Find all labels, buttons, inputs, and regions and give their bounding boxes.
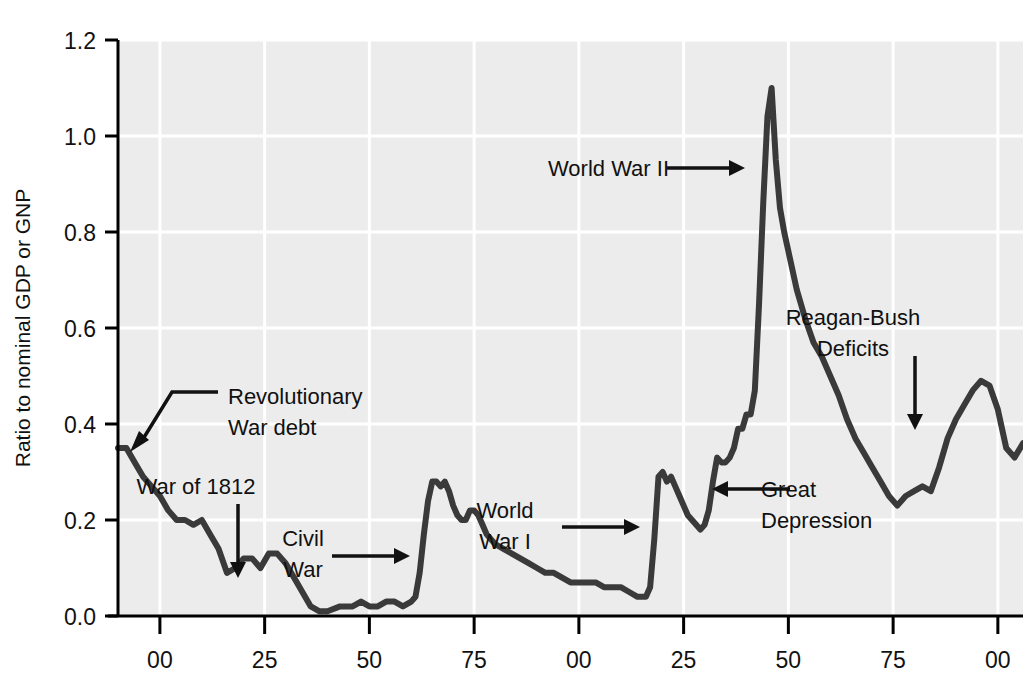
x-tick-label: 50 — [776, 647, 802, 673]
annotation-label: World War II — [548, 156, 669, 181]
annotation-label: War — [283, 557, 323, 582]
x-tick-label: 25 — [252, 647, 278, 673]
chart-figure: 0.00.20.40.60.81.01.2 002550750025507500… — [0, 0, 1023, 687]
x-tick-label: 75 — [880, 647, 906, 673]
x-tick-label: 75 — [461, 647, 487, 673]
x-tick-label: 25 — [671, 647, 697, 673]
annotation-label: Revolutionary — [228, 384, 363, 409]
annotation-label: Deficits — [817, 336, 889, 361]
annotation-label: Civil — [282, 526, 324, 551]
x-tick-label: 00 — [147, 647, 173, 673]
y-axis-title: Ratio to nominal GDP or GNP — [11, 189, 34, 468]
x-tick-label: 00 — [566, 647, 592, 673]
x-tick-label: 00 — [985, 647, 1011, 673]
annotation-label: Reagan-Bush — [786, 305, 921, 330]
debt-to-gdp-line-chart: 0.00.20.40.60.81.01.2 002550750025507500… — [0, 0, 1023, 687]
annotation-label: War debt — [228, 415, 316, 440]
x-tick-label: 50 — [357, 647, 383, 673]
y-tick-label: 0.0 — [64, 604, 96, 630]
y-tick-label: 0.4 — [64, 412, 96, 438]
y-axis-title-label: Ratio to nominal GDP or GNP — [11, 189, 34, 468]
annotation-label: War I — [479, 529, 531, 554]
annotation-label: Depression — [761, 508, 872, 533]
x-axis-ticks — [160, 616, 998, 634]
annotation-label: War of 1812 — [136, 474, 255, 499]
y-tick-label: 0.2 — [64, 508, 96, 534]
y-axis-tick-labels: 0.00.20.40.60.81.01.2 — [64, 28, 96, 630]
x-axis-tick-labels: 002550750025507500 — [147, 647, 1011, 673]
y-tick-label: 1.0 — [64, 124, 96, 150]
y-tick-label: 1.2 — [64, 28, 96, 54]
y-tick-label: 0.6 — [64, 316, 96, 342]
y-axis-ticks — [105, 40, 118, 616]
y-tick-label: 0.8 — [64, 220, 96, 246]
annotation-label: World — [476, 498, 533, 523]
